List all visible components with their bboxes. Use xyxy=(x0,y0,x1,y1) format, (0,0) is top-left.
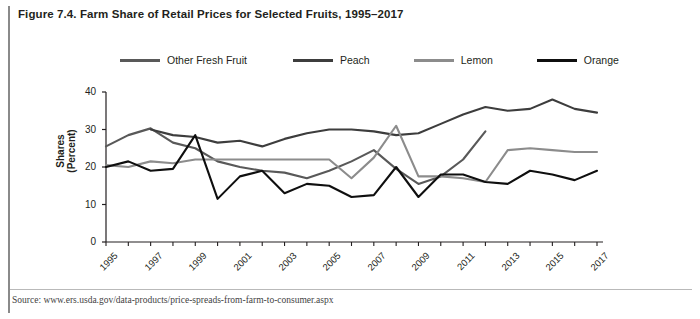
legend-item-peach[interactable]: Peach xyxy=(293,54,370,66)
legend-swatch-icon xyxy=(537,59,577,62)
legend-item-other-fresh-fruit[interactable]: Other Fresh Fruit xyxy=(120,54,247,66)
legend-label: Other Fresh Fruit xyxy=(167,54,247,66)
legend-swatch-icon xyxy=(293,59,333,62)
y-axis-tick-label: 30 xyxy=(70,124,96,135)
y-axis-tick-label: 10 xyxy=(70,199,96,210)
y-axis-tick-label: 40 xyxy=(70,86,96,97)
chart-legend: Other Fresh FruitPeachLemonOrange xyxy=(120,51,590,69)
legend-item-orange[interactable]: Orange xyxy=(537,54,619,66)
y-axis-tick-label: 0 xyxy=(70,236,96,247)
line-chart-svg xyxy=(0,78,700,258)
legend-swatch-icon xyxy=(120,59,160,62)
series-line-peach xyxy=(151,100,597,147)
y-axis-title-line1: Shares xyxy=(55,115,66,187)
figure-title: Figure 7.4. Farm Share of Retail Prices … xyxy=(18,8,403,20)
legend-swatch-icon xyxy=(414,59,454,62)
legend-label: Orange xyxy=(584,54,619,66)
legend-label: Lemon xyxy=(461,54,493,66)
footer-divider xyxy=(10,289,692,290)
y-axis-tick-label: 20 xyxy=(70,161,96,172)
legend-item-lemon[interactable]: Lemon xyxy=(414,54,493,66)
figure-container: Figure 7.4. Farm Share of Retail Prices … xyxy=(0,0,700,319)
plot-area xyxy=(0,78,700,258)
legend-label: Peach xyxy=(340,54,370,66)
source-note: Source: www.ers.usda.gov/data-products/p… xyxy=(12,295,334,305)
